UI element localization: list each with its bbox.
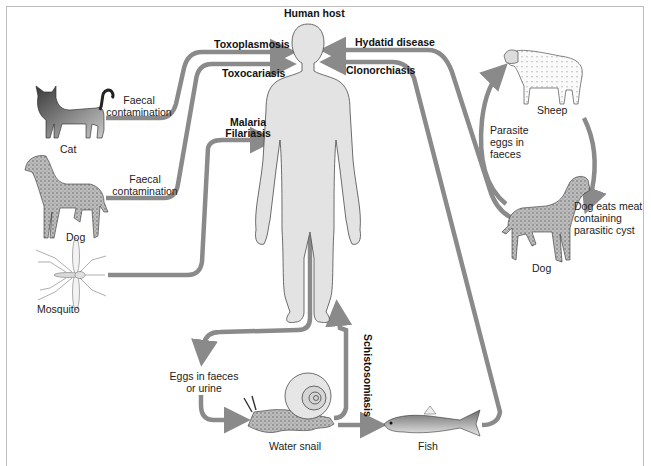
mosquito-label: Mosquito <box>37 303 80 315</box>
dog-eats-line1: Dog eats meat <box>574 200 642 212</box>
schistosomiasis-label: Schistosomiasis <box>362 334 374 417</box>
dog-eats-line3: parasitic cyst <box>574 224 635 236</box>
dog-right-label: Dog <box>532 262 551 274</box>
cat-illustration <box>36 86 113 138</box>
arrow-snail-to-human <box>334 306 346 418</box>
eggs-faeces-line1: Eggs in faeces <box>166 370 242 382</box>
sheep-label: Sheep <box>537 104 567 116</box>
dog-faecal-line1: Faecal <box>110 173 180 185</box>
fish-label: Fish <box>418 440 438 452</box>
mosquito-illustration <box>36 238 106 310</box>
toxoplasmosis-label: Toxoplasmosis <box>214 38 290 50</box>
arrow-eggs-to-snail <box>201 395 244 420</box>
parasite-eggs-line3: faeces <box>490 148 521 160</box>
sheep-illustration <box>504 50 582 104</box>
cat-faecal-line1: Faecal <box>104 94 174 106</box>
filariasis-label: Filariasis <box>222 127 274 139</box>
cat-faecal-line2: contamination <box>104 106 174 118</box>
human-host-label: Human host <box>284 7 345 19</box>
hydatid-disease-label: Hydatid disease <box>355 36 435 48</box>
toxocariasis-label: Toxocariasis <box>222 67 285 79</box>
fish-illustration <box>384 406 480 436</box>
parasite-eggs-line1: Parasite <box>490 124 529 136</box>
water-snail-illustration <box>244 373 334 433</box>
dog-eats-line2: containing <box>574 212 622 224</box>
water-snail-label: Water snail <box>269 440 321 452</box>
dog-faecal-line2: contamination <box>110 185 180 197</box>
clonorchiasis-label: Clonorchiasis <box>346 64 415 76</box>
cat-label: Cat <box>60 143 76 155</box>
dog-left-label: Dog <box>66 231 85 243</box>
parasite-eggs-line2: eggs in <box>490 136 524 148</box>
dog-left-illustration <box>25 155 108 238</box>
eggs-faeces-line2: or urine <box>166 382 242 394</box>
arrow-mosquito-to-human <box>108 140 270 275</box>
arrow-sheep-to-dog <box>584 118 595 208</box>
